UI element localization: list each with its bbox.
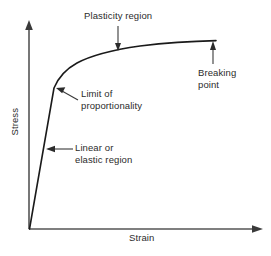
annotation-label-plasticity-region: Plasticity region bbox=[84, 10, 152, 22]
linear-left-arrow-icon bbox=[46, 146, 55, 152]
x-axis-arrowhead-icon bbox=[252, 225, 263, 233]
y-axis-arrowhead-icon bbox=[25, 20, 33, 30]
limit-arrow-shaft bbox=[62, 91, 78, 100]
annotation-label-limit-of-proportionality: Limit of proportionality bbox=[81, 88, 142, 111]
stress-strain-diagram: Plasticity region Breaking point Limit o… bbox=[0, 0, 271, 256]
diagram-canvas bbox=[0, 0, 271, 256]
y-axis-label: Stress bbox=[9, 98, 21, 146]
annotation-label-linear-elastic-region: Linear or elastic region bbox=[75, 142, 132, 165]
annotation-label-breaking-point: Breaking point bbox=[198, 67, 236, 90]
stress-strain-curve bbox=[30, 41, 217, 229]
x-axis-label: Strain bbox=[129, 232, 154, 244]
breaking-up-arrow-icon bbox=[210, 41, 216, 50]
